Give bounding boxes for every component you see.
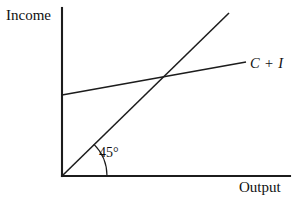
y-axis-label: Income bbox=[6, 8, 51, 23]
angle-label: 45° bbox=[99, 146, 119, 160]
keynesian-cross-figure: Income Output C + I 45° bbox=[0, 0, 295, 199]
x-axis-label: Output bbox=[239, 180, 281, 195]
c-plus-i-line bbox=[62, 62, 246, 95]
forty-five-degree-line bbox=[62, 13, 229, 176]
figure-canvas bbox=[0, 0, 295, 199]
c-plus-i-label: C + I bbox=[250, 56, 284, 71]
